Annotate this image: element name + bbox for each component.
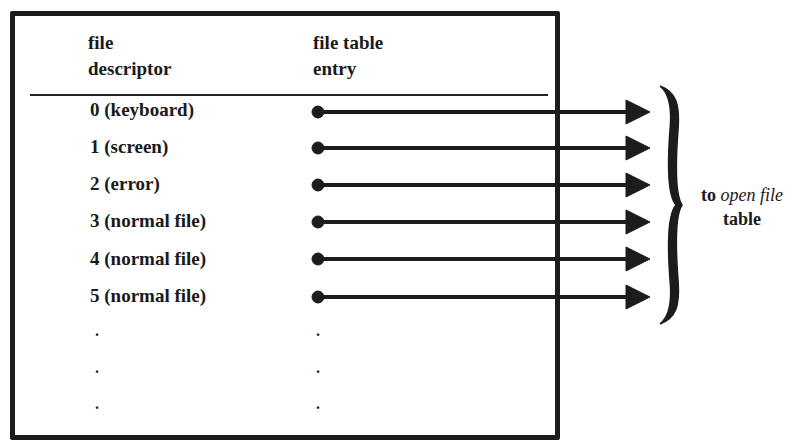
curly-brace-icon [660,86,682,324]
arrow-icon [312,173,650,197]
arrow-icon [312,285,650,309]
label-prefix: to [701,185,721,205]
arrow-icon [312,100,650,124]
label-line2: table [692,207,792,231]
arrow-icon [312,247,650,271]
arrow-icon [312,136,650,160]
label-emphasis: open file [721,185,783,205]
arrow-icon [312,210,650,234]
pointer-arrows [0,0,809,444]
open-file-table-label: to open file table [692,183,792,231]
